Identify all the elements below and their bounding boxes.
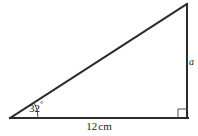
side-a-label: a [189, 57, 194, 67]
base-value: 12 [86, 120, 97, 132]
angle-label: 32° [29, 101, 43, 114]
right-angle-marker [178, 109, 187, 118]
degree-symbol: ° [40, 100, 43, 109]
angle-value: 32 [29, 102, 40, 114]
base-length-label: 12cm [0, 121, 198, 132]
base-unit: cm [98, 120, 111, 132]
triangle-drawing [0, 0, 198, 136]
triangle-figure: 32° 12cm a [0, 0, 198, 136]
